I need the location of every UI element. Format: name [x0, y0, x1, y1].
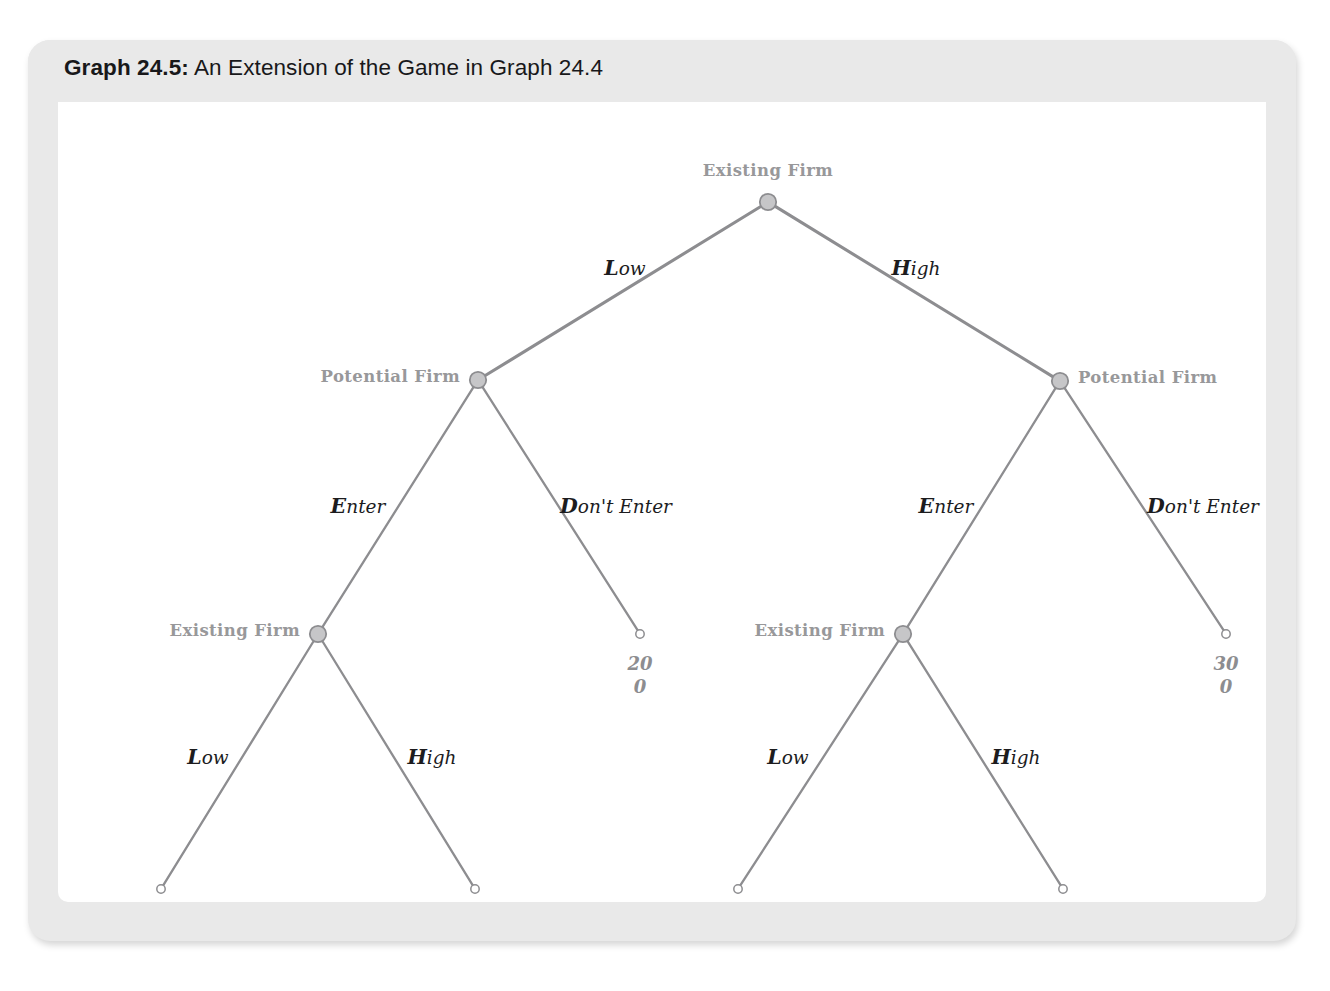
payoff-pair: 200 [627, 652, 652, 698]
tree-edge [163, 641, 313, 885]
decision-node [895, 626, 911, 642]
graph-title-number: Graph 24.5: [64, 55, 189, 80]
graph-card-body: Existing FirmPotential FirmPotential Fir… [58, 102, 1266, 902]
action-label: Enter [919, 494, 974, 518]
tree-edge [322, 641, 472, 885]
graph-title: Graph 24.5: An Extension of the Game in … [64, 55, 603, 81]
tree-edge [485, 206, 761, 375]
payoff-pair: 300 [1213, 652, 1238, 698]
tree-edge [323, 387, 474, 627]
action-label: Don't Enter [1147, 494, 1259, 518]
action-label: Low [604, 256, 645, 280]
payoff-potential-firm: 0 [627, 675, 652, 698]
terminal-node [734, 885, 742, 893]
payoff-existing-firm: 30 [1213, 652, 1238, 675]
decision-node [1052, 373, 1068, 389]
player-label: Potential Firm [1078, 368, 1217, 387]
action-label: High [991, 745, 1040, 769]
terminal-node [1222, 630, 1230, 638]
screenshot-root: Graph 24.5: An Extension of the Game in … [0, 0, 1330, 991]
action-label: High [407, 745, 456, 769]
payoff-existing-firm: 20 [627, 652, 652, 675]
decision-node [470, 372, 486, 388]
action-label: Enter [331, 494, 386, 518]
action-label: High [891, 256, 940, 280]
tree-edge [907, 388, 1055, 627]
tree-edge [740, 641, 898, 885]
payoff-potential-firm: 0 [1213, 675, 1238, 698]
decision-node [760, 194, 776, 210]
graph-title-text: An Extension of the Game in Graph 24.4 [189, 55, 603, 80]
decision-node [310, 626, 326, 642]
terminal-node [1059, 885, 1067, 893]
game-tree-svg [58, 102, 1266, 902]
tree-edge [1065, 388, 1224, 630]
game-tree-label-layer: Existing FirmPotential FirmPotential Fir… [58, 102, 1266, 902]
game-tree: Existing FirmPotential FirmPotential Fir… [58, 102, 1266, 902]
graph-card-header: Graph 24.5: An Extension of the Game in … [28, 40, 1296, 102]
player-label: Existing Firm [703, 161, 833, 180]
terminal-node [471, 885, 479, 893]
player-label: Existing Firm [170, 621, 300, 640]
tree-edge [908, 641, 1061, 885]
tree-edge [775, 206, 1053, 376]
terminal-node [157, 885, 165, 893]
action-label: Don't Enter [560, 494, 672, 518]
action-label: Low [767, 745, 808, 769]
player-label: Potential Firm [321, 367, 460, 386]
tree-edge [483, 387, 638, 630]
terminal-node [636, 630, 644, 638]
player-label: Existing Firm [755, 621, 885, 640]
graph-card: Graph 24.5: An Extension of the Game in … [28, 40, 1296, 941]
action-label: Low [187, 745, 228, 769]
